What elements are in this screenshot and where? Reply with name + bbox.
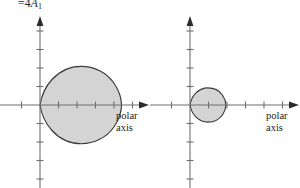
polar-axis-label-right-line1: polar (266, 110, 288, 121)
x-axis-arrowhead-left (139, 102, 149, 109)
y-axis-arrowhead-left (37, 16, 44, 26)
right-polar-plot (150, 0, 300, 188)
polar-axis-label-right: polar axis (266, 110, 288, 133)
x-axis-arrowhead-right (289, 102, 299, 109)
polar-axis-label-left-line1: polar (116, 110, 138, 121)
figure-page: =4A1 (0, 0, 300, 188)
polar-axis-label-left: polar axis (116, 110, 138, 133)
y-axis-arrowhead-right (187, 16, 194, 26)
polar-axis-label-right-line2: axis (266, 122, 288, 134)
figure-left: polar axis (0, 0, 150, 188)
figure-right: polar axis (150, 0, 300, 188)
left-polar-plot (0, 0, 150, 188)
polar-axis-label-left-line2: axis (116, 122, 138, 134)
